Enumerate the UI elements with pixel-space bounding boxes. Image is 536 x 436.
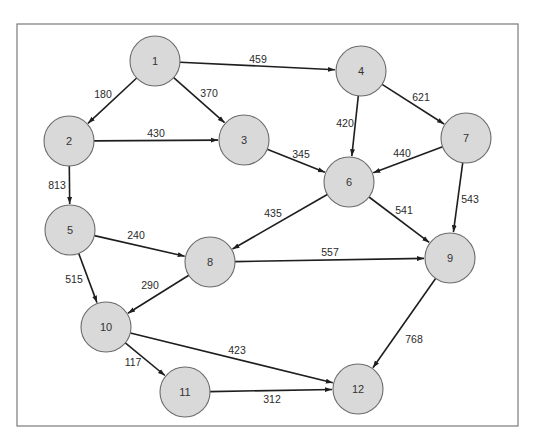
edge-weight-label: 813 bbox=[48, 179, 66, 191]
node-11: 11 bbox=[160, 367, 210, 417]
edge-1-to-2 bbox=[88, 78, 137, 123]
edge-weight-label: 435 bbox=[264, 207, 282, 219]
node-7: 7 bbox=[441, 113, 491, 163]
edge-weight-label: 557 bbox=[321, 246, 339, 258]
node-label: 7 bbox=[463, 132, 469, 144]
edge-weight-label: 430 bbox=[147, 127, 165, 139]
edge-weight-label: 117 bbox=[125, 356, 142, 368]
node-12: 12 bbox=[333, 364, 383, 414]
node-label: 8 bbox=[207, 256, 213, 268]
edge-weight-label: 621 bbox=[412, 91, 430, 103]
edge-weight-label: 345 bbox=[292, 148, 310, 160]
edge-weight-label: 240 bbox=[127, 229, 145, 241]
network-graph: 1803704594308133454206214405434355412405… bbox=[0, 0, 536, 436]
edge-weight-label: 312 bbox=[263, 393, 281, 405]
node-5: 5 bbox=[45, 205, 95, 255]
edge-weight-label: 423 bbox=[228, 344, 246, 356]
node-8: 8 bbox=[185, 237, 235, 287]
edge-weight-label: 541 bbox=[395, 204, 413, 216]
edge-9-to-12 bbox=[373, 279, 436, 368]
edge-10-to-12 bbox=[130, 333, 332, 383]
node-label: 6 bbox=[346, 176, 352, 188]
edge-weight-label: 370 bbox=[200, 87, 218, 99]
node-label: 2 bbox=[66, 135, 72, 147]
node-9: 9 bbox=[425, 233, 475, 283]
node-6: 6 bbox=[324, 157, 374, 207]
edge-6-to-8 bbox=[233, 195, 328, 250]
edge-weight-label: 515 bbox=[65, 273, 83, 285]
node-label: 4 bbox=[358, 65, 364, 77]
edge-2-to-3 bbox=[94, 140, 218, 141]
edges-layer bbox=[69, 62, 462, 391]
node-10: 10 bbox=[81, 302, 131, 352]
edge-1-to-3 bbox=[174, 78, 225, 123]
node-label: 12 bbox=[352, 383, 364, 395]
node-label: 11 bbox=[179, 386, 190, 398]
node-2: 2 bbox=[44, 116, 94, 166]
node-label: 10 bbox=[100, 321, 112, 333]
edge-weight-label: 180 bbox=[94, 88, 112, 100]
edge-weight-label: 543 bbox=[461, 193, 479, 205]
node-label: 1 bbox=[152, 55, 158, 67]
node-4: 4 bbox=[336, 46, 386, 96]
node-1: 1 bbox=[130, 36, 180, 86]
edge-11-to-12 bbox=[210, 390, 332, 392]
edge-weight-label: 768 bbox=[405, 333, 423, 345]
node-label: 5 bbox=[67, 224, 73, 236]
edge-weight-label: 290 bbox=[141, 279, 159, 291]
edge-weight-label: 459 bbox=[249, 53, 267, 65]
edge-weight-label: 420 bbox=[336, 117, 354, 129]
edge-weight-label: 440 bbox=[393, 147, 411, 159]
node-label: 3 bbox=[241, 134, 247, 146]
edge-8-to-9 bbox=[235, 258, 424, 261]
node-label: 9 bbox=[447, 252, 453, 264]
node-3: 3 bbox=[219, 115, 269, 165]
